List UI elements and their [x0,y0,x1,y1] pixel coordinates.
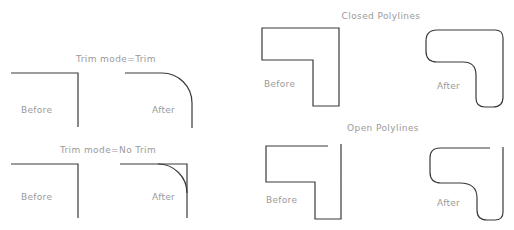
closed-after-polyline [426,30,503,107]
trim-mode-no-trim-title: Trim mode=No Trim [59,145,156,155]
trim-mode-trim-section: Trim mode=Trim Before After [11,54,192,128]
open-before-label: Before [266,195,297,205]
open-after-figure: After [430,147,503,220]
trim-after-label: After [152,105,175,115]
no-trim-before-label: Before [21,192,52,202]
closed-before-label: Before [264,79,295,89]
fillet-diagram: Trim mode=Trim Before After Trim mode=No… [0,0,514,230]
no-trim-after-original-lines [120,164,187,218]
trim-before-figure: Before [11,73,78,127]
closed-polylines-title: Closed Polylines [342,11,421,21]
no-trim-after-fillet-arc [158,164,187,193]
open-polylines-title: Open Polylines [347,123,419,133]
open-polylines-section: Open Polylines Before After [266,123,503,220]
trim-before-corner [11,73,78,127]
no-trim-before-corner [11,164,78,218]
closed-after-label: After [437,81,460,91]
closed-before-figure: Before [262,28,339,106]
trim-mode-no-trim-section: Trim mode=No Trim Before After [11,145,187,218]
no-trim-after-figure: After [120,164,187,218]
no-trim-before-figure: Before [11,164,78,218]
open-before-polyline [266,144,341,219]
open-before-figure: Before [266,144,341,219]
trim-after-figure: After [125,73,192,128]
open-after-label: After [437,198,460,208]
open-after-polyline [430,147,503,220]
closed-after-figure: After [426,30,503,107]
closed-before-polyline [262,28,339,106]
trim-before-label: Before [21,105,52,115]
no-trim-after-label: After [152,192,175,202]
trim-mode-trim-title: Trim mode=Trim [75,54,156,64]
trim-after-fillet [125,73,192,128]
closed-polylines-section: Closed Polylines Before After [262,11,503,107]
